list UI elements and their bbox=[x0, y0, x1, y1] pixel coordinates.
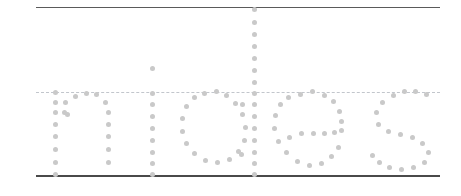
glyph-dot bbox=[426, 150, 431, 155]
glyph-dot bbox=[398, 132, 403, 137]
glyph-dot bbox=[377, 160, 382, 165]
glyph-dot bbox=[422, 160, 427, 165]
glyph-dot bbox=[386, 129, 391, 134]
glyph-dot bbox=[402, 89, 407, 94]
dotted-word-layer bbox=[0, 0, 461, 196]
glyph-dot bbox=[376, 122, 381, 127]
glyph-dot bbox=[410, 135, 415, 140]
glyph-dot bbox=[413, 89, 418, 94]
glyph-dot bbox=[391, 93, 396, 98]
glyph-dot bbox=[399, 167, 404, 172]
glyph-dot bbox=[420, 141, 425, 146]
glyph-dot bbox=[387, 165, 392, 170]
glyph-dot bbox=[424, 92, 429, 97]
glyph-dot bbox=[380, 100, 385, 105]
letter-s bbox=[0, 0, 461, 196]
tracing-canvas bbox=[0, 0, 461, 196]
glyph-dot bbox=[411, 165, 416, 170]
glyph-dot bbox=[374, 110, 379, 115]
glyph-dot bbox=[370, 153, 375, 158]
